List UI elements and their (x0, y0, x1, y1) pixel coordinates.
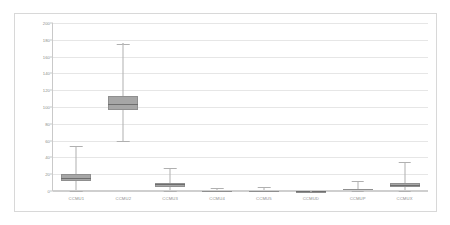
y-axis-tick-label: 100 (43, 105, 50, 110)
box-plot-item[interactable]: CCMU4 (202, 23, 232, 191)
y-axis-tick-label: 60 (45, 138, 50, 143)
chart-frame: 020406080100120140160180200 CCMU1CCMU2CC… (14, 13, 437, 212)
y-axis-tick-label: 80 (45, 121, 50, 126)
y-axis-tick-mark (50, 123, 53, 124)
whisker-cap-upper (70, 146, 83, 147)
y-axis-tick-label: 120 (43, 88, 50, 93)
x-axis-tick-label: CCMU4 (209, 196, 225, 201)
outlier-point (122, 43, 124, 45)
plot-area: 020406080100120140160180200 CCMU1CCMU2CC… (52, 23, 428, 191)
y-axis-tick-label: 140 (43, 71, 50, 76)
box-plot-item[interactable]: CCMU5 (249, 23, 279, 191)
x-axis-tick-label: CCMUD (303, 196, 319, 201)
y-axis-tick-mark (50, 73, 53, 74)
y-axis-tick-mark (50, 107, 53, 108)
y-axis-tick-mark (50, 56, 53, 57)
box-plot-item[interactable]: CCMU2 (108, 23, 138, 191)
x-axis-tick-label: CCMUX (397, 196, 413, 201)
y-axis-tick-label: 180 (43, 37, 50, 42)
whisker-cap-lower (398, 191, 411, 192)
x-axis-line (53, 190, 428, 191)
y-axis-tick-label: 200 (43, 21, 50, 26)
y-axis-tick-mark (50, 157, 53, 158)
whisker-line (123, 44, 124, 141)
box-plot-item[interactable]: CCMUP (343, 23, 373, 191)
whisker-cap-upper (351, 181, 364, 182)
median-line (61, 178, 91, 179)
y-axis-tick-label: 160 (43, 54, 50, 59)
y-axis-tick-mark (50, 174, 53, 175)
median-line (390, 185, 420, 186)
median-line (108, 104, 138, 105)
y-axis-tick-mark (50, 140, 53, 141)
whisker-cap-upper (258, 187, 271, 188)
whisker-line (170, 168, 171, 191)
y-axis-tick-mark (50, 90, 53, 91)
box-plot-item[interactable]: CCMUD (296, 23, 326, 191)
whisker-cap-lower (117, 141, 130, 142)
box-plot-item[interactable]: CCMU1 (61, 23, 91, 191)
median-line (155, 184, 185, 185)
whisker-cap-upper (164, 168, 177, 169)
x-axis-tick-label: CCMU2 (115, 196, 131, 201)
whisker-cap-upper (211, 188, 224, 189)
whisker-cap-upper (398, 162, 411, 163)
whisker-line (76, 146, 77, 191)
x-axis-tick-label: CCMU1 (69, 196, 85, 201)
x-axis-tick-label: CCMU3 (162, 196, 178, 201)
y-axis-tick-mark (50, 23, 53, 24)
x-axis-tick-label: CCMUP (350, 196, 366, 201)
whisker-cap-lower (70, 191, 83, 192)
box-plot-item[interactable]: CCMU3 (155, 23, 185, 191)
y-axis-tick-mark (50, 39, 53, 40)
box-plot-item[interactable]: CCMUX (390, 23, 420, 191)
whisker-cap-lower (164, 191, 177, 192)
x-axis-tick-label: CCMU5 (256, 196, 272, 201)
y-axis-tick-label: 40 (45, 155, 50, 160)
y-axis-tick-label: 20 (45, 172, 50, 177)
y-axis-tick-label: 0 (48, 189, 50, 194)
